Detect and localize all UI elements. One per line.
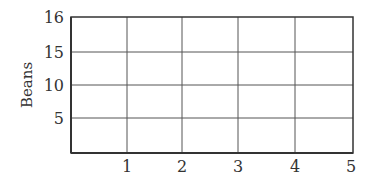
y-axis-label: Beans <box>18 62 36 108</box>
y-tick-15: 15 <box>44 43 64 62</box>
x-tick-5: 5 <box>346 157 356 176</box>
y-tick-10: 10 <box>44 76 64 95</box>
chart: 16 15 10 5 1 2 3 4 5 Beans <box>0 0 371 187</box>
y-tick-5: 5 <box>54 109 64 128</box>
x-tick-3: 3 <box>233 157 243 176</box>
x-tick-2: 2 <box>177 157 187 176</box>
x-tick-4: 4 <box>290 157 300 176</box>
y-tick-16: 16 <box>44 8 64 27</box>
grid <box>71 17 353 153</box>
x-tick-1: 1 <box>122 157 132 176</box>
